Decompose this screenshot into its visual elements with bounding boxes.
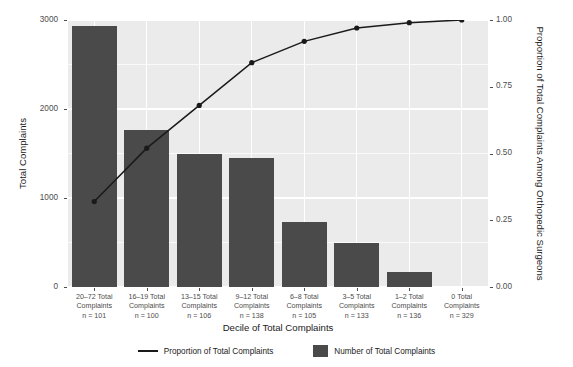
legend-label: Proportion of Total Complaints — [164, 347, 274, 356]
line-data-point — [354, 25, 359, 30]
y-axis-right-tick-mark — [490, 154, 493, 155]
legend-item: Proportion of Total Complaints — [138, 347, 274, 356]
line-data-point — [197, 103, 202, 108]
line-data-point — [92, 199, 97, 204]
y-axis-left-tick-mark — [64, 198, 67, 199]
y-axis-right-tick-mark — [490, 220, 493, 221]
y-axis-right-tick-mark — [490, 20, 493, 21]
legend-swatch-marker-icon — [313, 345, 328, 357]
line-series — [68, 20, 488, 287]
x-axis-tick-mark — [462, 288, 463, 291]
legend-label: Number of Total Complaints — [334, 347, 435, 356]
line-data-point — [144, 146, 149, 151]
y-axis-left-tick-label: 1000 — [28, 193, 58, 202]
y-axis-right-tick-label: 0.25 — [496, 215, 512, 224]
y-axis-right-tick-label: 0.00 — [496, 282, 512, 291]
x-axis-tick-mark — [94, 288, 95, 291]
legend-item: Number of Total Complaints — [313, 345, 435, 357]
x-axis-tick-mark — [252, 288, 253, 291]
y-axis-left-tick-mark — [64, 109, 67, 110]
y-axis-right-tick-mark — [490, 87, 493, 88]
proportion-line — [94, 20, 462, 202]
y-axis-right-title: Proportion of Total Complaints Among Ort… — [535, 0, 546, 307]
line-data-point — [249, 60, 254, 65]
y-axis-left-title: Total Complaints — [17, 20, 28, 287]
y-axis-right-tick-label: 1.00 — [496, 15, 512, 24]
x-axis-tick-mark — [357, 288, 358, 291]
y-axis-left-tick-label: 3000 — [28, 15, 58, 24]
y-axis-left-tick-mark — [64, 287, 67, 288]
x-axis-title: Decile of Total Complaints — [68, 322, 488, 333]
y-axis-left-tick-label: 2000 — [28, 104, 58, 113]
line-data-point — [459, 20, 464, 23]
y-axis-right-tick-label: 0.75 — [496, 81, 512, 90]
line-data-point — [407, 20, 412, 25]
y-axis-left-tick-label: 0 — [28, 282, 58, 291]
x-axis-tick-mark — [304, 288, 305, 291]
x-axis-tick-mark — [147, 288, 148, 291]
legend-line-marker-icon — [138, 350, 158, 352]
y-axis-left-tick-mark — [64, 20, 67, 21]
x-axis-tick-label: 0 Total Complaints n = 329 — [429, 293, 496, 321]
x-axis-tick-mark — [199, 288, 200, 291]
x-axis-tick-mark — [409, 288, 410, 291]
chart-legend: Proportion of Total ComplaintsNumber of … — [0, 340, 573, 362]
y-axis-right-tick-mark — [490, 287, 493, 288]
y-axis-right-tick-label: 0.50 — [496, 148, 512, 157]
pareto-chart-figure: 0100020003000 Total Complaints 0.000.250… — [0, 0, 573, 367]
plot-panel — [68, 20, 488, 287]
line-data-point — [302, 39, 307, 44]
